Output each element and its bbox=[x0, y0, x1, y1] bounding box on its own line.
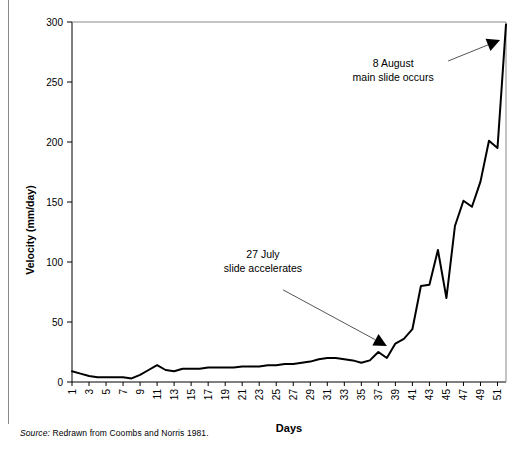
annotation-line-2: slide accelerates bbox=[224, 262, 302, 274]
x-tick-label: 39 bbox=[390, 389, 401, 401]
y-tick-label: 300 bbox=[46, 17, 63, 28]
x-tick-label: 13 bbox=[169, 389, 180, 401]
x-tick-label: 21 bbox=[237, 389, 248, 401]
x-tick-label: 23 bbox=[254, 389, 265, 401]
chart-annotations: 8 Augustmain slide occurs27 Julyslide ac… bbox=[224, 39, 500, 346]
x-tick-label: 45 bbox=[441, 389, 452, 401]
plot-frame bbox=[72, 22, 506, 382]
x-tick-label: 29 bbox=[305, 389, 316, 401]
x-tick-label: 5 bbox=[101, 389, 112, 395]
y-axis-tick-labels: 050100150200250300 bbox=[46, 17, 63, 388]
x-tick-label: 49 bbox=[475, 389, 486, 401]
x-tick-label: 27 bbox=[288, 389, 299, 401]
x-tick-label: 41 bbox=[407, 389, 418, 401]
annotation-line-1: 8 August bbox=[373, 57, 414, 69]
annotation-arrow-shaft bbox=[448, 45, 488, 61]
x-tick-label: 1 bbox=[67, 389, 78, 395]
x-tick-label: 3 bbox=[84, 389, 95, 395]
x-tick-label: 51 bbox=[492, 389, 503, 401]
x-tick-label: 35 bbox=[356, 389, 367, 401]
y-tick-label: 150 bbox=[46, 197, 63, 208]
x-tick-label: 19 bbox=[220, 389, 231, 401]
annotation-line-2: main slide occurs bbox=[353, 71, 434, 83]
x-tick-label: 47 bbox=[458, 389, 469, 401]
x-tick-label: 11 bbox=[152, 389, 163, 400]
x-tick-label: 7 bbox=[118, 389, 129, 395]
y-tick-label: 0 bbox=[57, 377, 63, 388]
y-tick-label: 100 bbox=[46, 257, 63, 268]
velocity-days-line-chart: 050100150200250300 135791113151719212325… bbox=[0, 0, 523, 450]
x-axis-tick-labels: 1357911131517192123252729313335373941434… bbox=[67, 389, 503, 401]
y-axis-title: Velocity (mm/day) bbox=[24, 185, 36, 274]
source-text: Redrawn from Coombs and Norris 1981. bbox=[52, 428, 208, 438]
annotation-main-slide: 8 Augustmain slide occurs bbox=[353, 39, 500, 83]
y-tick-label: 250 bbox=[46, 77, 63, 88]
source-note: Source: Redrawn from Coombs and Norris 1… bbox=[20, 428, 209, 438]
y-axis-ticks bbox=[67, 22, 72, 382]
annotation-arrowhead bbox=[372, 334, 387, 346]
velocity-series-line bbox=[72, 24, 506, 378]
x-axis-ticks bbox=[72, 382, 497, 386]
y-tick-label: 200 bbox=[46, 137, 63, 148]
x-tick-label: 43 bbox=[424, 389, 435, 401]
annotation-slide-accelerates: 27 Julyslide accelerates bbox=[224, 248, 387, 346]
x-tick-label: 17 bbox=[203, 389, 214, 401]
annotation-arrow-shaft bbox=[283, 290, 375, 340]
source-label: Source: bbox=[20, 428, 50, 438]
figure-container: 050100150200250300 135791113151719212325… bbox=[0, 0, 523, 450]
x-tick-label: 33 bbox=[339, 389, 350, 401]
x-tick-label: 15 bbox=[186, 389, 197, 401]
x-tick-label: 31 bbox=[322, 389, 333, 401]
x-tick-label: 9 bbox=[135, 389, 146, 395]
x-tick-label: 37 bbox=[373, 389, 384, 401]
annotation-line-1: 27 July bbox=[246, 248, 280, 260]
x-tick-label: 25 bbox=[271, 389, 282, 401]
y-tick-label: 50 bbox=[52, 317, 64, 328]
x-axis-title: Days bbox=[276, 422, 302, 434]
